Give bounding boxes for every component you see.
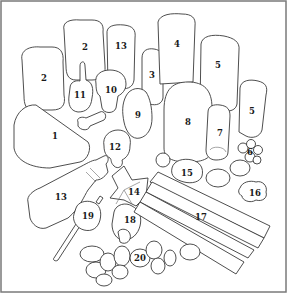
pebble-b (206, 169, 230, 187)
label-14: 14 (128, 187, 140, 197)
label-2b: 2 (82, 42, 88, 52)
label-3: 3 (149, 70, 155, 80)
label-8: 8 (185, 117, 191, 127)
pebble-c (230, 160, 250, 176)
label-4: 4 (174, 39, 180, 49)
label-16: 16 (249, 188, 261, 198)
object-20 (80, 241, 176, 286)
label-9: 9 (135, 110, 141, 120)
label-13a: 13 (115, 41, 127, 51)
label-1: 1 (52, 131, 58, 141)
pebble-a (156, 153, 170, 167)
pebble-d (180, 244, 200, 260)
label-12: 12 (109, 142, 121, 152)
object-19-stick (53, 224, 80, 261)
object-key-drawing: 1 2 2 3 4 5 5 6 7 8 9 10 11 12 13 13 14 … (0, 0, 287, 293)
object-4 (158, 14, 195, 84)
label-13b: 13 (55, 192, 67, 202)
label-11: 11 (74, 90, 86, 100)
label-18: 18 (124, 215, 136, 225)
label-2a: 2 (41, 73, 47, 83)
label-6: 6 (247, 147, 253, 157)
label-10: 10 (105, 85, 117, 95)
label-5a: 5 (215, 60, 221, 70)
label-15: 15 (181, 168, 193, 178)
object-19-peg (96, 196, 103, 204)
label-5b: 5 (249, 106, 255, 116)
label-19: 19 (82, 211, 94, 221)
label-7: 7 (217, 128, 223, 138)
diagram-frame: 1 2 2 3 4 5 5 6 7 8 9 10 11 12 13 13 14 … (0, 0, 287, 293)
object-18-b (118, 229, 130, 243)
label-17: 17 (195, 212, 207, 222)
object-pin (78, 112, 106, 130)
label-20: 20 (134, 253, 146, 263)
